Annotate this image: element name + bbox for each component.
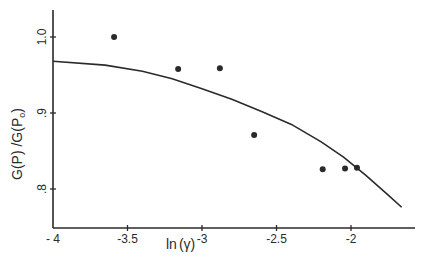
data-point (342, 165, 348, 171)
data-point (320, 166, 326, 172)
data-point (251, 132, 257, 138)
data-point (111, 34, 117, 40)
x-axis-title: ln(γ) (166, 236, 195, 252)
x-tick-label: -3.5 (117, 232, 138, 246)
x-tick-label: -2.5 (266, 232, 287, 246)
data-point (217, 65, 223, 71)
plot-area (53, 34, 402, 207)
data-point (175, 66, 181, 72)
x-tick-label: - 4 (46, 232, 60, 246)
fit-curve (53, 61, 402, 207)
chart: - 4-3.5-3-2.5-2 1.0.9.8 ln(γ) G(P) /G(Po… (0, 0, 439, 275)
y-tick-label: .9 (35, 108, 49, 118)
y-tick-label: .8 (35, 184, 49, 194)
y-tick-label: 1.0 (35, 28, 49, 45)
x-tick-label: -2 (346, 232, 357, 246)
y-axis-title: G(P) /G(Po) (9, 108, 27, 180)
x-tick-label: -3 (197, 232, 208, 246)
